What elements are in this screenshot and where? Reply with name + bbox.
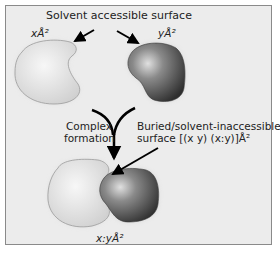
arrow-to-y-icon [117,31,138,43]
molecule-x [15,40,80,104]
label-buried-surface: Buried/solvent-inaccessible [137,120,280,132]
arrow-to-x-icon [75,30,94,41]
label-complex: Complex [66,120,112,132]
label-buried-surface-formula: surface [(x y) (x:y)]Å² [137,132,250,144]
label-complex-area: x:yÅ² [96,232,123,244]
label-x-area: xÅ² [31,27,49,39]
label-y-area: yÅ² [158,27,176,39]
title-solvent-accessible-surface: Solvent accessible surface [46,10,192,22]
label-formation: formation [64,132,115,144]
molecule-y [128,43,185,101]
